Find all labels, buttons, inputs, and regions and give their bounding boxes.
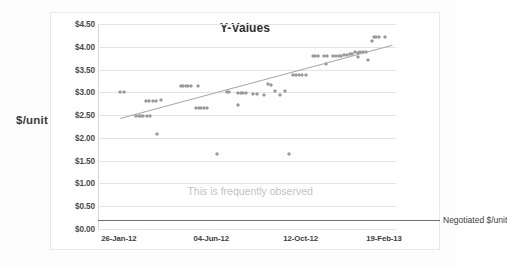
y-axis-tick-label: $2.00 [55,133,95,142]
gridline [98,206,396,207]
y-axis-tick-label: $4.50 [55,20,95,29]
chart-frame: Y-Values $0.00$0.50$1.00$1.50$2.00$2.50$… [50,12,440,250]
x-axis-tick-label: 12-Oct-12 [283,234,318,243]
gridline [98,24,396,25]
y-axis-tick-label: $0.00 [55,225,95,234]
y-axis-title: $/unit [8,114,56,126]
data-point [236,103,240,107]
gridline [98,161,396,162]
y-axis-tick-label: $3.50 [55,65,95,74]
data-point [287,152,291,156]
data-point [159,98,163,102]
data-point [316,54,320,58]
data-point [262,92,266,96]
data-point [155,132,159,136]
data-point [122,90,126,94]
data-point [189,83,193,87]
gridline [98,229,396,230]
y-axis-tick-label: $0.50 [55,202,95,211]
x-axis-tick-label: 19-Feb-13 [366,234,402,243]
data-point [383,35,387,39]
data-point [304,73,308,77]
gridline [98,47,396,48]
y-axis-tick-label: $1.00 [55,179,95,188]
data-point [377,35,381,39]
y-axis-tick-labels: $0.00$0.50$1.00$1.50$2.00$2.50$3.00$3.50… [51,24,95,229]
y-axis-tick-label: $4.00 [55,42,95,51]
negotiated-line-label: Negotiated $/unit [443,215,507,225]
data-point [369,39,373,43]
y-axis-tick-label: $1.50 [55,156,95,165]
data-point [356,55,360,59]
negotiated-reference-line [98,220,440,221]
data-point [268,82,272,86]
x-axis-tick-label: 26-Jan-12 [101,234,136,243]
data-point [196,83,200,87]
chart-annotation: This is frequently observed [187,185,312,197]
data-point [154,98,158,102]
data-point [148,114,152,118]
gridline [98,70,396,71]
data-point [325,54,329,58]
plot-area: This is frequently observed [98,24,396,229]
trend-line [120,45,393,119]
data-point [205,106,209,110]
x-axis-tick-label: 04-Jun-12 [193,234,229,243]
y-axis-tick-label: $3.00 [55,88,95,97]
data-point [214,152,218,156]
y-axis-tick-label: $2.50 [55,111,95,120]
data-point [244,91,248,95]
gridline [98,138,396,139]
data-point [366,58,370,62]
